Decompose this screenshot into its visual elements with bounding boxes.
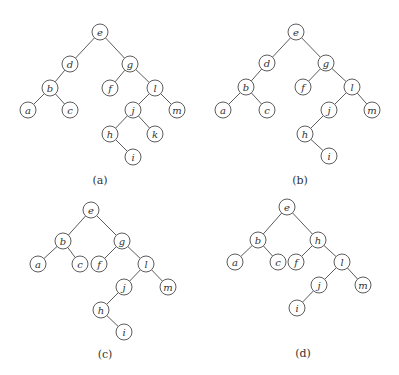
- node-label: h: [315, 235, 321, 246]
- caption-b: (b): [292, 174, 308, 187]
- edge-j-k: [138, 116, 149, 128]
- node-c: c: [72, 256, 88, 272]
- edge-d-b: [55, 70, 65, 82]
- node-f: f: [288, 254, 304, 270]
- tree-diagram-canvas: edgbflacjmhki(a) edgbflacjmhi(b) ebgacfl…: [0, 0, 399, 375]
- edge-b-a: [44, 246, 57, 258]
- node-e: e: [92, 24, 108, 40]
- node-e: e: [83, 202, 99, 218]
- node-label: b: [243, 82, 249, 93]
- edge-h-f: [302, 246, 313, 257]
- tree-d: ebhacfljmi(d): [227, 199, 371, 360]
- node-l: l: [344, 79, 360, 95]
- node-label: e: [293, 27, 299, 38]
- node-b: b: [42, 80, 58, 96]
- node-label: h: [302, 129, 308, 140]
- edge-g-f: [309, 69, 321, 81]
- node-label: g: [119, 236, 125, 247]
- node-l: l: [138, 256, 154, 272]
- edge-g-l: [128, 247, 140, 259]
- edge-e-b: [263, 213, 281, 234]
- node-j: j: [311, 277, 327, 293]
- node-i: i: [125, 149, 141, 165]
- node-d: d: [259, 55, 275, 71]
- caption-a: (a): [92, 174, 107, 187]
- node-b: b: [238, 79, 254, 95]
- edge-l-m: [347, 268, 357, 279]
- node-c: c: [259, 102, 275, 118]
- node-label: m: [163, 282, 172, 293]
- node-g: g: [114, 233, 130, 249]
- node-h: h: [297, 126, 313, 142]
- node-label: e: [88, 205, 94, 216]
- node-i: i: [116, 324, 132, 340]
- node-label: b: [60, 236, 66, 247]
- caption-c: (c): [98, 348, 113, 361]
- node-label: l: [340, 257, 343, 268]
- edge-l-j: [130, 270, 141, 281]
- node-label: h: [98, 305, 104, 316]
- tree-b: edgbflacjmhi(b): [215, 24, 380, 187]
- edge-e-g: [97, 216, 117, 236]
- node-c: c: [270, 254, 286, 270]
- edge-e-b: [68, 216, 85, 235]
- edge-l-m: [357, 93, 367, 104]
- node-label: l: [144, 259, 147, 270]
- tree-a: edgbflacjmhki(a): [20, 24, 185, 187]
- node-label: m: [358, 280, 367, 291]
- node-label: a: [25, 105, 31, 116]
- node-f: f: [91, 256, 107, 272]
- node-c: c: [62, 102, 78, 118]
- edge-b-c: [68, 247, 75, 257]
- edge-e-d: [75, 38, 94, 58]
- edge-g-f: [115, 70, 125, 82]
- edge-g-f: [105, 247, 117, 259]
- edge-j-h: [107, 293, 119, 305]
- edge-h-i: [311, 139, 323, 150]
- edge-b-c: [55, 94, 64, 104]
- node-a: a: [215, 102, 231, 118]
- node-label: m: [367, 105, 376, 116]
- node-d: d: [62, 56, 78, 72]
- edge-h-l: [324, 245, 336, 256]
- node-label: a: [35, 259, 41, 270]
- node-f: f: [102, 80, 118, 96]
- node-h: h: [310, 232, 326, 248]
- node-label: b: [47, 83, 53, 94]
- tree-c: ebgacfljmhi(c): [30, 202, 176, 361]
- edge-b-c: [251, 93, 261, 104]
- node-label: l: [153, 83, 156, 94]
- edge-b-a: [34, 94, 45, 105]
- edge-l-j: [325, 268, 337, 280]
- node-j: j: [125, 102, 141, 118]
- edge-j-h: [116, 116, 128, 128]
- edge-e-g: [302, 38, 321, 58]
- edge-e-h: [292, 213, 312, 234]
- edge-b-c: [263, 246, 272, 256]
- node-b: b: [55, 233, 71, 249]
- node-label: c: [275, 257, 281, 268]
- node-j: j: [321, 102, 337, 118]
- node-h: h: [102, 126, 118, 142]
- edge-e-d: [272, 38, 290, 57]
- edge-g-l: [136, 70, 149, 83]
- node-l: l: [334, 254, 350, 270]
- node-l: l: [147, 80, 163, 96]
- node-a: a: [20, 102, 36, 118]
- node-label: c: [77, 259, 83, 270]
- edge-h-i: [116, 140, 128, 152]
- edge-e-g: [105, 38, 124, 58]
- caption-d: (d): [295, 347, 311, 360]
- edge-l-m: [161, 94, 172, 105]
- edge-b-a: [241, 246, 252, 257]
- node-label: c: [67, 105, 73, 116]
- node-m: m: [169, 102, 185, 118]
- node-label: h: [107, 129, 113, 140]
- node-f: f: [295, 79, 311, 95]
- node-e: e: [288, 24, 304, 40]
- node-label: d: [264, 58, 270, 69]
- node-label: e: [97, 27, 103, 38]
- edge-h-i: [107, 316, 118, 327]
- node-g: g: [318, 55, 334, 71]
- edge-l-m: [152, 270, 163, 281]
